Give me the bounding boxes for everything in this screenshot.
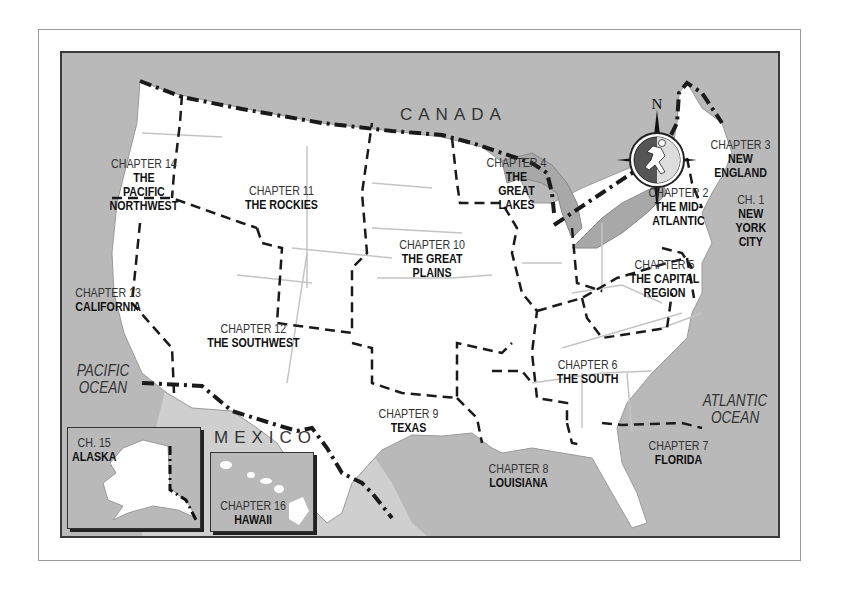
- region-label-ch1: CH. 1 NEW YORK CITY: [735, 193, 766, 249]
- alaska-inset: CH. 15 ALASKA: [67, 427, 201, 529]
- region-label-ch6: CHAPTER 6 THE SOUTH: [557, 358, 619, 386]
- region-label-ch14: CHAPTER 14 THE PACIFIC NORTHWEST: [110, 157, 179, 213]
- us-regions-map: CANADA MEXICO PACIFIC OCEAN ATLANTIC OCE…: [60, 51, 780, 538]
- canada-label: CANADA: [400, 105, 507, 125]
- region-label-ch15: CH. 15 ALASKA: [72, 436, 116, 464]
- hawaii-inset: CHAPTER 16 HAWAII: [210, 452, 314, 532]
- region-label-ch13: CHAPTER 13 CALIFORNIA: [75, 286, 141, 314]
- region-label-ch16: CHAPTER 16 HAWAII: [220, 499, 286, 527]
- region-label-ch9: CHAPTER 9 TEXAS: [379, 407, 439, 435]
- region-label-ch2: CHAPTER 2 THE MID- ATLANTIC: [649, 186, 709, 228]
- region-label-ch8: CHAPTER 8 LOUISIANA: [489, 462, 549, 490]
- region-label-ch10: CHAPTER 10 THE GREAT PLAINS: [399, 238, 465, 280]
- pacific-ocean-label: PACIFIC OCEAN: [77, 363, 130, 397]
- region-label-ch5: CHAPTER 5 THE CAPITAL REGION: [630, 258, 700, 300]
- region-label-ch3: CHAPTER 3 NEW ENGLAND: [711, 138, 771, 180]
- region-label-ch7: CHAPTER 7 FLORIDA: [649, 439, 709, 467]
- region-label-ch12: CHAPTER 12 THE SOUTHWEST: [207, 322, 299, 350]
- region-label-ch4: CHAPTER 4 THE GREAT LAKES: [487, 156, 547, 212]
- region-label-ch11: CHAPTER 11 THE ROCKIES: [245, 184, 318, 212]
- mexico-label: MEXICO: [214, 428, 317, 448]
- atlantic-ocean-label: ATLANTIC OCEAN: [703, 393, 768, 427]
